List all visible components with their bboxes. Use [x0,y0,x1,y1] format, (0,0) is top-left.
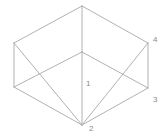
vertex-label-1: 1 [86,80,90,88]
center-left-upper [14,52,82,87]
top-left-edge [14,6,82,43]
top-right-edge [82,6,148,43]
center-right-upper [82,52,148,88]
cross-right-down [82,43,148,125]
cross-left-down [14,43,82,125]
cube-edge-group [14,6,148,125]
wireframe-cube-figure: 1234 [0,0,167,138]
bottom-left-edge [14,87,82,125]
vertex-label-3: 3 [153,96,157,104]
wireframe-cube-svg [0,0,167,138]
vertex-label-4: 4 [153,36,157,44]
vertex-label-2: 2 [89,125,93,133]
bottom-right-edge [82,88,148,125]
